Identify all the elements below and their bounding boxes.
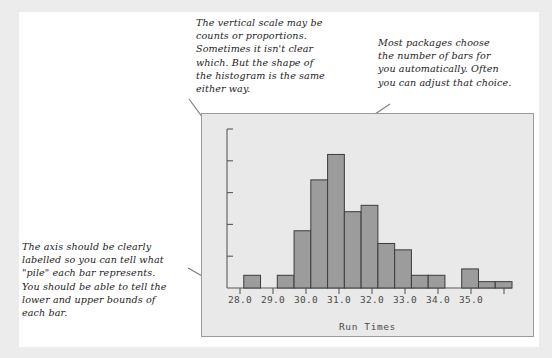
x-tick-label-30: 30.0 bbox=[294, 294, 318, 305]
histogram-bar bbox=[328, 154, 345, 288]
histogram-bar bbox=[277, 275, 294, 288]
histogram-bar bbox=[495, 282, 512, 288]
histogram-bar bbox=[311, 180, 328, 288]
histogram-panel: 28.0 29.0 30.0 31.0 32.0 33.0 34.0 35.0 … bbox=[201, 113, 534, 337]
x-axis-label: Run Times bbox=[202, 321, 533, 332]
histogram-bar bbox=[428, 275, 445, 288]
x-tick-label-31: 31.0 bbox=[327, 294, 351, 305]
histogram-bar bbox=[462, 269, 479, 288]
x-tick-label-29: 29.0 bbox=[261, 294, 285, 305]
y-axis bbox=[227, 129, 233, 288]
histogram-bar bbox=[244, 275, 261, 288]
histogram-bar bbox=[395, 250, 412, 288]
x-tick-label-34: 34.0 bbox=[426, 294, 450, 305]
histogram-bar bbox=[361, 205, 378, 288]
histogram-bar bbox=[478, 282, 495, 288]
figure-root: The vertical scale may be counts or prop… bbox=[0, 0, 552, 358]
histogram-bar bbox=[344, 212, 361, 288]
x-tick-label-35: 35.0 bbox=[459, 294, 483, 305]
histogram-bars bbox=[244, 154, 512, 288]
x-tick-label-33: 33.0 bbox=[393, 294, 417, 305]
x-tick-label-32: 32.0 bbox=[360, 294, 384, 305]
histogram-bar bbox=[411, 275, 428, 288]
histogram-bar bbox=[378, 243, 395, 288]
histogram-bar bbox=[294, 231, 311, 288]
x-tick-label-28: 28.0 bbox=[228, 294, 252, 305]
